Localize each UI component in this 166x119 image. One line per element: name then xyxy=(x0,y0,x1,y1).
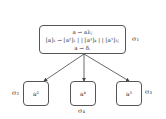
membrane-sigma2: a² xyxy=(23,81,49,106)
rule-1: a → aλ; xyxy=(40,29,125,35)
content-sigma2: a² xyxy=(33,90,39,97)
label-sigma3: σ₃ xyxy=(145,88,152,96)
membrane-sigma4: a⁴ xyxy=(70,81,96,106)
rule-3: a → δ. xyxy=(40,45,125,51)
label-sigma4: σ₄ xyxy=(78,107,85,115)
membrane-sigma3: a³ xyxy=(116,81,142,106)
label-sigma1: σ₁ xyxy=(132,35,139,43)
arrow-to-sigma3 xyxy=(84,54,129,81)
content-sigma3: a³ xyxy=(126,90,132,97)
rule-2: [a]₁ → [a²]₂ | | [a⁴]₄ | | [a³]₃; xyxy=(40,37,125,43)
arrow-to-sigma2 xyxy=(44,54,84,81)
label-sigma2: σ₂ xyxy=(12,89,19,97)
content-sigma4: a⁴ xyxy=(80,90,86,97)
membrane-sigma1: a → aλ; [a]₁ → [a²]₂ | | [a⁴]₄ | | [a³]₃… xyxy=(39,25,126,54)
